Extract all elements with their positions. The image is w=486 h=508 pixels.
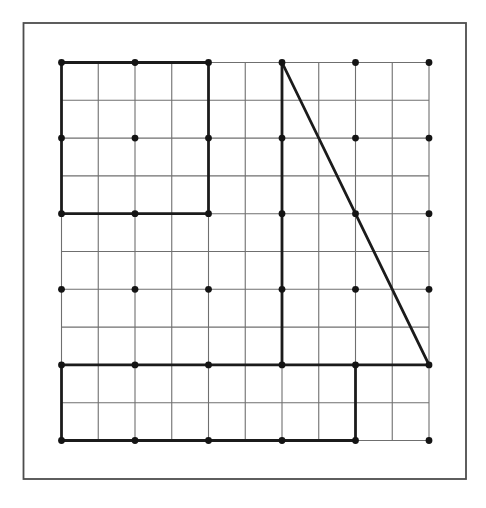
lattice-dot — [352, 362, 359, 369]
lattice-dot — [426, 210, 433, 217]
lattice-dot — [279, 437, 286, 444]
lattice-dot — [352, 210, 359, 217]
lattice-dot — [132, 59, 139, 66]
figure-page — [0, 0, 486, 508]
lattice-dot — [58, 59, 65, 66]
lattice-dot — [132, 437, 139, 444]
lattice-dot — [132, 362, 139, 369]
lattice-dot — [205, 59, 212, 66]
lattice-dot — [205, 135, 212, 142]
lattice-dot — [352, 437, 359, 444]
lattice-dot — [205, 286, 212, 293]
lattice-dot — [352, 135, 359, 142]
lattice-dot — [58, 210, 65, 217]
lattice-dot — [279, 210, 286, 217]
lattice-dot — [279, 135, 286, 142]
lattice-dot — [426, 437, 433, 444]
lattice-dot — [132, 286, 139, 293]
dot-grid-puzzle-figure — [0, 0, 486, 508]
lattice-dot — [132, 135, 139, 142]
lattice-dot — [58, 286, 65, 293]
lattice-dot — [58, 135, 65, 142]
lattice-dot — [279, 286, 286, 293]
lattice-dot — [205, 210, 212, 217]
lattice-dot — [426, 59, 433, 66]
lattice-dot — [58, 437, 65, 444]
lattice-dot — [132, 210, 139, 217]
lattice-dot — [205, 437, 212, 444]
lattice-dot — [426, 286, 433, 293]
lattice-dot — [352, 59, 359, 66]
lattice-dot — [279, 362, 286, 369]
lattice-dot — [352, 286, 359, 293]
lattice-dot — [279, 59, 286, 66]
lattice-dot — [58, 362, 65, 369]
lattice-dot — [205, 362, 212, 369]
lattice-dot — [426, 362, 433, 369]
lattice-dot — [426, 135, 433, 142]
figure-background — [0, 0, 486, 508]
